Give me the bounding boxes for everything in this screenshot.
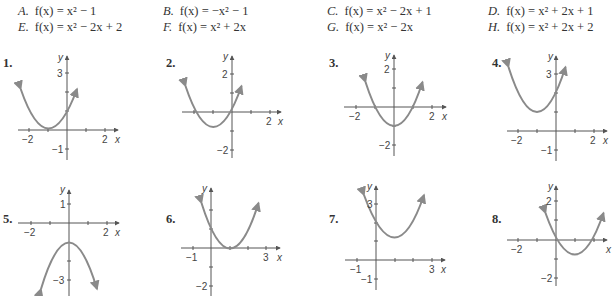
- x-tick-label: 2: [103, 227, 109, 238]
- y-axis-label: y: [201, 183, 208, 194]
- y-tick-label: −1: [541, 145, 553, 156]
- x-tick-label: 2: [266, 116, 272, 127]
- y-tick-label: 2: [546, 196, 552, 207]
- x-tick-label: 2: [429, 111, 435, 122]
- x-axis-label: x: [277, 116, 284, 127]
- x-tick-label: −2: [511, 135, 523, 146]
- y-axis-label: y: [222, 51, 229, 62]
- y-axis-label: y: [384, 50, 391, 61]
- y-axis-label: y: [366, 181, 373, 192]
- graph-4: −2 2 x 3 −1 y: [507, 51, 609, 161]
- y-axis-label: y: [59, 184, 66, 195]
- x-axis-label: x: [602, 135, 609, 146]
- x-axis-label: x: [276, 252, 283, 263]
- graph-6: −1 3 x −2 y: [181, 183, 283, 296]
- y-tick-label: −1: [361, 274, 373, 285]
- graph-7: −1 3 x 3 −1 y: [345, 181, 447, 290]
- parabola-curve: [364, 195, 424, 238]
- x-tick-label: 2: [102, 134, 108, 145]
- y-axis-label: y: [57, 52, 64, 63]
- y-tick-label: −2: [541, 273, 553, 284]
- x-tick-label: −2: [349, 111, 361, 122]
- x-axis-label: x: [605, 244, 612, 255]
- x-tick-label: −2: [24, 227, 36, 238]
- x-axis-label: x: [114, 227, 121, 238]
- x-axis-label: x: [114, 134, 121, 145]
- x-tick-label: −2: [22, 134, 34, 145]
- y-axis-label: y: [547, 51, 554, 62]
- x-tick-label: 3: [429, 264, 435, 275]
- parabola-curve: [546, 213, 604, 255]
- x-tick-label: 3: [263, 252, 269, 263]
- y-axis-label: y: [547, 181, 554, 192]
- graph-5: −2 2 x 1 −3 y: [18, 184, 121, 296]
- y-tick-label: 3: [57, 68, 63, 79]
- y-tick-label: 2: [384, 64, 390, 75]
- graph-2: 2 x 2 −2 y: [182, 51, 284, 158]
- x-tick-label: 2: [590, 135, 596, 146]
- y-tick-label: −1: [52, 144, 64, 155]
- y-tick-label: 3: [367, 199, 373, 210]
- y-tick-label: 3: [546, 69, 552, 80]
- y-tick-label: −2: [196, 281, 208, 292]
- y-tick-label: 1: [60, 199, 66, 210]
- x-axis-label: x: [440, 264, 447, 275]
- graph-1: −2 2 x 3 −1 y: [18, 52, 121, 160]
- y-tick-label: −2: [217, 145, 229, 156]
- ticks: [357, 204, 432, 279]
- x-tick-label: −1: [186, 252, 198, 263]
- parabola-curve: [21, 89, 77, 129]
- y-tick-label: −3: [53, 275, 65, 286]
- graphs-canvas: −2 2 x 3 −1 y 2 x 2 −2 y −2: [0, 0, 616, 296]
- y-tick-label: 2: [222, 69, 228, 80]
- x-tick-label: −2: [511, 244, 523, 255]
- x-axis-label: x: [441, 111, 448, 122]
- graph-8: −2 x 2 −2 y: [507, 181, 612, 286]
- parabola-curve: [186, 86, 242, 127]
- graph-3: −2 2 x 2 −2 y: [344, 50, 448, 156]
- y-tick-label: −2: [379, 140, 391, 151]
